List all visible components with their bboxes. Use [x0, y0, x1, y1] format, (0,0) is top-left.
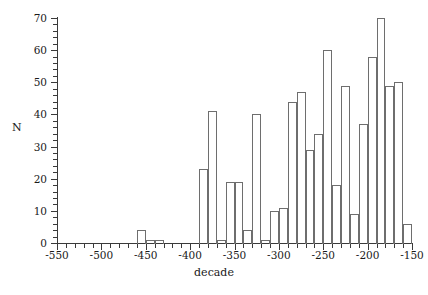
histogram-bar [403, 224, 412, 244]
x-axis-tick-label: -450 [134, 250, 158, 261]
x-axis-minor-tick [66, 244, 67, 248]
y-axis-tick-label: 30 [20, 142, 47, 153]
y-axis-tick-label: 40 [20, 109, 47, 120]
x-axis-tick-label: -550 [45, 250, 69, 261]
x-axis-minor-tick [199, 244, 200, 248]
y-axis-label: N [12, 122, 22, 133]
x-axis-minor-tick [155, 244, 156, 248]
histogram-bar [146, 240, 155, 244]
x-axis-minor-tick [297, 244, 298, 248]
x-axis-tick-label: -500 [90, 250, 114, 261]
x-axis-tick-label: -350 [223, 250, 247, 261]
histogram-bar [261, 240, 270, 244]
y-axis-tick-label: 70 [20, 13, 47, 24]
histogram-bar [270, 211, 279, 244]
x-axis-tick-label: -200 [356, 250, 380, 261]
x-axis-minor-tick [181, 244, 182, 248]
y-axis-tick-label: 10 [20, 206, 47, 217]
x-axis-minor-tick [306, 244, 307, 248]
histogram-bar [394, 82, 403, 244]
histogram-bar [341, 86, 350, 245]
histogram-bar [297, 92, 306, 244]
histogram-figure: 010203040506070 -550-500-450-400-350-300… [0, 0, 428, 295]
x-axis-tick-label: -400 [178, 250, 202, 261]
histogram-bar [332, 185, 341, 244]
x-axis-minor-tick [119, 244, 120, 248]
y-axis-tick-label: 60 [20, 45, 47, 56]
y-axis-tick-label: 20 [20, 174, 47, 185]
x-axis-minor-tick [226, 244, 227, 248]
x-axis-minor-tick [314, 244, 315, 248]
histogram-bar [377, 18, 386, 244]
x-axis-minor-tick [243, 244, 244, 248]
x-axis-minor-tick [217, 244, 218, 248]
x-axis-minor-tick [128, 244, 129, 248]
x-axis-minor-tick [172, 244, 173, 248]
histogram-bar [155, 240, 164, 244]
x-axis-minor-tick [359, 244, 360, 248]
x-axis-minor-tick [84, 244, 85, 248]
x-axis-minor-tick [252, 244, 253, 248]
x-axis-minor-tick [270, 244, 271, 248]
x-axis-tick-label: -150 [400, 250, 424, 261]
x-axis-minor-tick [394, 244, 395, 248]
y-axis-tick-label: 50 [20, 77, 47, 88]
histogram-bar [368, 57, 377, 244]
x-axis-minor-tick [350, 244, 351, 248]
y-axis-tick-label: 0 [20, 238, 47, 249]
histogram-bar [350, 214, 359, 244]
x-axis-minor-tick [110, 244, 111, 248]
x-axis-minor-tick [385, 244, 386, 248]
histogram-bar [208, 111, 217, 244]
x-axis-minor-tick [288, 244, 289, 248]
x-axis-minor-tick [261, 244, 262, 248]
x-axis-minor-tick [377, 244, 378, 248]
histogram-bar [243, 230, 252, 244]
histogram-bar [226, 182, 235, 244]
x-axis-minor-tick [164, 244, 165, 248]
histogram-bar [385, 86, 394, 245]
histogram-bar [199, 169, 208, 244]
histogram-bars [57, 18, 412, 243]
histogram-bar [306, 150, 315, 244]
histogram-bar [217, 240, 226, 244]
x-axis-tick-label: -250 [311, 250, 335, 261]
x-axis-tick-label: -300 [267, 250, 291, 261]
histogram-bar [235, 182, 244, 244]
x-axis-minor-tick [93, 244, 94, 248]
x-axis-minor-tick [403, 244, 404, 248]
x-axis-label: decade [0, 267, 428, 278]
histogram-bar [323, 50, 332, 244]
histogram-bar [314, 134, 323, 244]
histogram-bar [288, 102, 297, 244]
histogram-bar [279, 208, 288, 244]
x-axis-minor-tick [341, 244, 342, 248]
x-axis-minor-tick [208, 244, 209, 248]
histogram-bar [252, 114, 261, 244]
histogram-bar [137, 230, 146, 244]
histogram-bar [359, 124, 368, 244]
x-axis-minor-tick [75, 244, 76, 248]
x-axis-minor-tick [137, 244, 138, 248]
x-axis-minor-tick [332, 244, 333, 248]
